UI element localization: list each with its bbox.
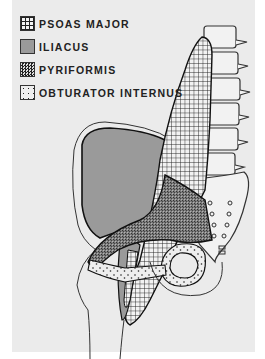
legend-label: OBTURATOR INTERNUS — [39, 87, 183, 99]
solid-gray-swatch-icon — [20, 39, 35, 54]
dot-pattern-swatch-icon — [20, 85, 35, 100]
legend-label: ILIACUS — [39, 41, 89, 53]
checker-pattern-swatch-icon — [20, 62, 35, 77]
legend-item-iliacus: ILIACUS — [20, 35, 183, 58]
legend-item-obturator-internus: OBTURATOR INTERNUS — [20, 81, 183, 104]
legend-item-pyriformis: PYRIFORMIS — [20, 58, 183, 81]
legend-label: PYRIFORMIS — [39, 64, 116, 76]
legend-item-psoas-major: PSOAS MAJOR — [20, 12, 183, 35]
grid-pattern-swatch-icon — [20, 16, 35, 31]
legend: PSOAS MAJOR ILIACUS PYRIFORMIS OBTURATOR… — [20, 12, 183, 104]
legend-label: PSOAS MAJOR — [39, 18, 130, 30]
